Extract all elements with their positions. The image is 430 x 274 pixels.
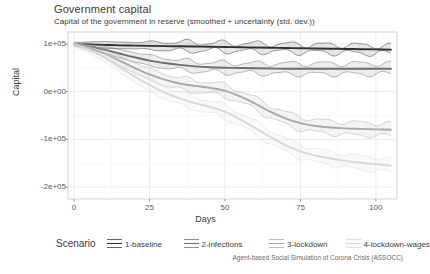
legend-item-label: 4-lockdown-wages [364, 240, 430, 249]
legend-item-3-lockdown[interactable]: 3-lockdown [269, 238, 327, 249]
legend-key-icon [184, 238, 199, 249]
legend-title: Scenario [56, 238, 95, 249]
legend-item-label: 1-baseline [125, 240, 162, 249]
chart-caption: Agent-based Social Simulation of Corona … [232, 254, 403, 261]
legend-item-label: 3-lockdown [287, 240, 327, 249]
legend-item-1-baseline[interactable]: 1-baseline [107, 238, 162, 249]
legend-item-2-infections[interactable]: 2-infections [184, 238, 243, 249]
legend-item-label: 2-infections [202, 240, 243, 249]
legend-key-icon [269, 238, 284, 249]
legend-key-icon [346, 238, 361, 249]
legend-key-icon [107, 238, 122, 249]
legend-item-4-lockdown-wages[interactable]: 4-lockdown-wages [346, 238, 430, 249]
